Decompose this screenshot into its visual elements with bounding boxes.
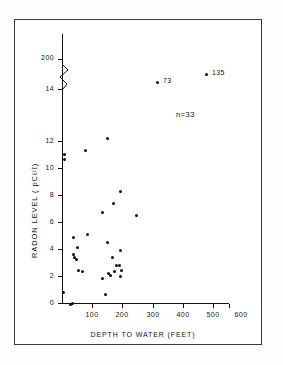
data-point (111, 256, 114, 259)
data-point (75, 258, 78, 261)
x-tick-300 (153, 304, 154, 308)
sample-size-annotation: n=33 (176, 110, 195, 119)
data-point (101, 277, 104, 280)
data-point (112, 202, 115, 205)
data-point (104, 293, 107, 296)
y-tick-14 (58, 89, 62, 90)
data-point-label-73: 73 (163, 77, 172, 84)
y-tick-200 (58, 59, 62, 60)
data-point-outlier (205, 73, 208, 76)
scatter-plot: 0 2 4 6 8 10 12 14 200 100 200 300 400 5… (0, 0, 283, 365)
data-point (63, 158, 66, 161)
x-ticklabel-400: 400 (171, 311, 195, 318)
data-point (119, 275, 122, 278)
x-tick-600 (229, 304, 230, 308)
y-ticklabel-14: 14 (36, 85, 54, 92)
data-point (76, 246, 79, 249)
y-tick-4 (58, 249, 62, 250)
data-point (69, 303, 72, 306)
y-tick-12 (58, 141, 62, 142)
y-tick-6 (58, 222, 62, 223)
data-point (72, 236, 75, 239)
y-tick-8 (58, 195, 62, 196)
data-point (119, 249, 122, 252)
data-point (106, 241, 109, 244)
x-tick-100 (92, 304, 93, 308)
data-point (63, 153, 66, 156)
x-tick-400 (183, 304, 184, 308)
x-ticklabel-100: 100 (80, 311, 104, 318)
y-ticklabel-0: 0 (36, 299, 54, 306)
x-tick-500 (213, 304, 214, 308)
data-point (119, 190, 122, 193)
data-point (84, 149, 87, 152)
data-point (135, 214, 138, 217)
x-ticklabel-300: 300 (141, 311, 165, 318)
data-point (101, 211, 104, 214)
axis-break-marker (57, 64, 73, 90)
data-point (86, 233, 89, 236)
data-point (118, 264, 121, 267)
data-point (109, 274, 112, 277)
data-point (62, 291, 65, 294)
data-point (106, 137, 109, 140)
data-point (81, 270, 84, 273)
data-point (77, 269, 80, 272)
y-tick-0 (58, 303, 62, 304)
data-point-label-135: 135 (212, 69, 225, 76)
y-tick-2 (58, 276, 62, 277)
data-point (120, 269, 123, 272)
x-tick-200 (122, 304, 123, 308)
x-axis-title: DEPTH TO WATER (FEET) (68, 331, 218, 338)
y-ticklabel-12: 12 (36, 137, 54, 144)
data-point-outlier (156, 81, 159, 84)
x-ticklabel-500: 500 (201, 311, 225, 318)
y-tick-10 (58, 168, 62, 169)
x-ticklabel-600: 600 (229, 311, 253, 318)
x-axis-line (62, 303, 229, 304)
data-point (113, 270, 116, 273)
x-ticklabel-200: 200 (110, 311, 134, 318)
y-ticklabel-2: 2 (36, 272, 54, 279)
y-axis-title: RADON LEVEL ( pCi/ℓ) (30, 163, 39, 258)
y-ticklabel-200: 200 (31, 54, 54, 61)
figure-page: 0 2 4 6 8 10 12 14 200 100 200 300 400 5… (0, 0, 283, 365)
